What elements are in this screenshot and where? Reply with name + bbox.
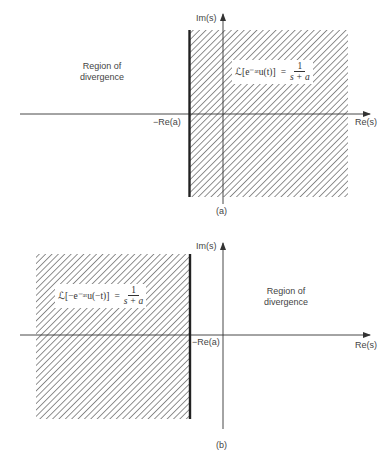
divergence-label-line1: Region of xyxy=(264,286,308,297)
formula-equals: = xyxy=(114,291,119,301)
diagram-canvas xyxy=(0,0,391,451)
im-axis-label-b: Im(s) xyxy=(196,242,217,251)
boundary-label-a: −Re(a) xyxy=(153,118,181,127)
formula-lhs: ℒ[−e⁻ᵃᵗu(−t)] xyxy=(58,290,109,301)
im-axis-label-a: Im(s) xyxy=(196,14,217,23)
panel-b xyxy=(20,243,370,429)
caption-b: (b) xyxy=(216,440,227,450)
re-axis-label-a: Re(s) xyxy=(355,118,377,127)
formula-equals: = xyxy=(281,67,286,77)
formula-fraction: 1 s + a xyxy=(124,285,144,307)
divergence-label-b: Region of divergence xyxy=(264,286,308,309)
boundary-label-b: −Re(a) xyxy=(192,338,220,347)
caption-a: (a) xyxy=(216,206,227,216)
divergence-label-line1: Region of xyxy=(80,61,124,72)
formula-denominator: s + a xyxy=(124,296,144,306)
formula-numerator: 1 xyxy=(294,61,305,72)
formula-denominator: s + a xyxy=(290,72,310,82)
laplace-formula-a: ℒ[e⁻ᵃᵗu(t)] = 1 s + a xyxy=(232,60,313,84)
convergence-region-a xyxy=(189,30,348,197)
formula-lhs: ℒ[e⁻ᵃᵗu(t)] xyxy=(235,66,276,77)
convergence-region-b xyxy=(36,254,190,419)
divergence-label-line2: divergence xyxy=(264,297,308,308)
formula-numerator: 1 xyxy=(128,285,139,296)
divergence-label-a: Region of divergence xyxy=(80,61,124,84)
panel-a xyxy=(20,14,370,204)
formula-fraction: 1 s + a xyxy=(290,61,310,83)
re-axis-label-b: Re(s) xyxy=(355,341,377,350)
divergence-label-line2: divergence xyxy=(80,72,124,83)
laplace-formula-b: ℒ[−e⁻ᵃᵗu(−t)] = 1 s + a xyxy=(55,284,146,308)
